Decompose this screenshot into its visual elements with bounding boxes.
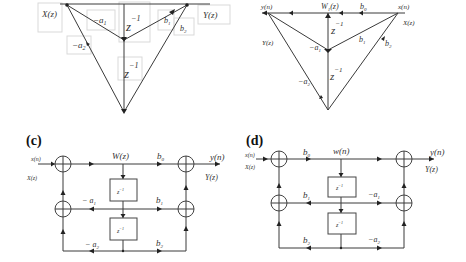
adder-icon bbox=[396, 195, 412, 211]
arrow-delay2-in bbox=[339, 209, 344, 213]
branch-a2 bbox=[268, 13, 328, 110]
arrow-delay1 bbox=[325, 13, 331, 18]
adder-icon bbox=[271, 151, 287, 167]
adder-icon bbox=[271, 195, 287, 211]
panel-c-tag: (c) bbox=[26, 133, 42, 149]
coef-b1-label: b1 bbox=[359, 35, 366, 45]
adder-icon bbox=[55, 156, 71, 172]
output-time-label: y(n) bbox=[209, 152, 225, 162]
output-label: Y(z) bbox=[203, 10, 218, 20]
input-time-label: x(n) bbox=[30, 156, 41, 163]
output-z-label: Y(z) bbox=[425, 165, 438, 174]
delay1-label: z−1 bbox=[330, 20, 344, 36]
arrow-right-up-2 bbox=[184, 226, 189, 231]
panel-c-block-diagram: (c) bbox=[26, 133, 225, 254]
delay1-label: z−1 bbox=[125, 14, 140, 34]
filter-structures-figure: X(z) −a1 z−1 b1 b2 Y(z) −a2 z−1 y(n) Y(z… bbox=[0, 0, 466, 262]
panel-d-tag: (d) bbox=[246, 133, 263, 149]
coef-a2-label: −a2 bbox=[72, 40, 86, 51]
branch-a1 bbox=[268, 13, 328, 50]
arrow-right-up-1 bbox=[402, 183, 407, 188]
node-left bbox=[65, 3, 69, 7]
coef-a1-label: − a1 bbox=[82, 196, 96, 206]
output-time-label: y(n) bbox=[260, 3, 273, 11]
input-time-label: x(n) bbox=[397, 3, 410, 11]
junction-node bbox=[122, 250, 124, 252]
arrow-top-1 bbox=[289, 11, 293, 16]
coef-b2-label: b2 bbox=[180, 24, 187, 34]
coef-b0-label: b0 bbox=[157, 151, 165, 162]
input-z-label: X(z) bbox=[244, 164, 255, 171]
panel-d-block-diagram: (d) bbox=[244, 133, 445, 251]
adder-icon bbox=[55, 201, 71, 217]
coef-b2-label: b2 bbox=[156, 238, 164, 249]
arrow-delay1 bbox=[121, 37, 127, 42]
coef-b1-label: b1 bbox=[156, 195, 163, 206]
coef-a1-label: −a1 bbox=[368, 190, 380, 200]
arrow-output bbox=[262, 11, 267, 16]
arrow-left-up-2 bbox=[277, 221, 282, 226]
coef-b0-label: b0 bbox=[303, 147, 311, 158]
coef-b1-label: b1 bbox=[303, 190, 310, 201]
arrow-b0 bbox=[157, 162, 162, 167]
arrow-a1 bbox=[377, 201, 382, 206]
delay2-label: z−1 bbox=[329, 66, 343, 82]
output-time-label: y(n) bbox=[429, 147, 445, 157]
node-label: W1(z) bbox=[321, 2, 339, 12]
arrow-b1 bbox=[157, 207, 162, 212]
output-z-label: Y(z) bbox=[262, 39, 274, 47]
output-z-label: Y(z) bbox=[205, 173, 218, 182]
arrow-b1 bbox=[306, 201, 311, 206]
node-label: w(n) bbox=[333, 146, 350, 156]
arrow-input bbox=[263, 157, 268, 162]
input-time-label: x(n) bbox=[244, 152, 255, 159]
coef-a2-label: −a2 bbox=[368, 235, 380, 245]
input-label: X(z) bbox=[41, 9, 57, 19]
adder-icon bbox=[396, 151, 412, 167]
node-label: W(z) bbox=[112, 151, 129, 161]
arrow-left-up-1 bbox=[277, 183, 282, 188]
arrow-a1 bbox=[89, 207, 94, 212]
arrow-a2 bbox=[377, 246, 382, 251]
arrow-a2 bbox=[89, 249, 94, 254]
arrow-top-3 bbox=[359, 11, 363, 16]
adder-icon bbox=[178, 156, 194, 172]
arrow-left-up-1 bbox=[61, 190, 66, 195]
coef-b1-label: b1 bbox=[164, 16, 171, 26]
input-z-label: X(z) bbox=[26, 175, 37, 182]
coef-a2-label: − a2 bbox=[85, 240, 99, 250]
arrow-top-1 bbox=[89, 162, 94, 167]
node-middle bbox=[324, 49, 332, 53]
arrow-output bbox=[429, 157, 434, 162]
coef-b0-label: b0 bbox=[360, 2, 367, 12]
panel-b-signal-flow-graph: y(n) Y(z) W1(z) b0 x(n) X(z) z−1 z−1 b1 … bbox=[260, 2, 415, 110]
panel-a-signal-flow-graph: X(z) −a1 z−1 b1 b2 Y(z) −a2 z−1 bbox=[38, 2, 230, 114]
arrow-b2 bbox=[306, 246, 311, 251]
input-z-label: X(z) bbox=[402, 19, 415, 27]
coef-b2-label: b2 bbox=[385, 39, 392, 49]
arrow-output bbox=[215, 162, 220, 167]
arrow-top-2 bbox=[339, 11, 343, 16]
arrow-top-2 bbox=[377, 157, 382, 162]
adder-icon bbox=[178, 201, 194, 217]
node-right bbox=[185, 3, 189, 7]
arrow-delay2-in bbox=[121, 214, 126, 218]
coef-b2-label: b2 bbox=[303, 235, 311, 246]
arrow-left-up-2 bbox=[61, 229, 66, 234]
arrow-b2 bbox=[157, 249, 162, 254]
arrow-right-up-1 bbox=[184, 185, 189, 190]
arrow-right-up-2 bbox=[402, 221, 407, 226]
arrow-input bbox=[51, 162, 55, 167]
arrow-delay2 bbox=[121, 109, 127, 114]
delay2-label: z−1 bbox=[123, 61, 138, 81]
arrow-delay1-in bbox=[121, 175, 126, 179]
junction-node bbox=[340, 247, 342, 249]
coef-a1-label: −a1 bbox=[93, 15, 107, 26]
arrow-delay1-in bbox=[339, 173, 344, 177]
